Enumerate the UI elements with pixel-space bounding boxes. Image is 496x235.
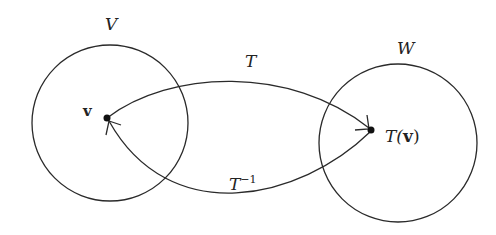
vector-v-label: v: [83, 104, 92, 119]
image-suffix: ): [413, 126, 420, 146]
arrow-t-curve: [107, 81, 369, 128]
set-w-label: W: [397, 40, 414, 57]
vector-v-point: [104, 115, 111, 122]
map-t-inverse-base: T: [229, 174, 240, 194]
image-tv-label: T(v): [385, 128, 420, 145]
map-t-inverse-exponent: −1: [240, 173, 256, 186]
inverse-transformation-diagram: V W T v T(v) T−1: [0, 0, 496, 235]
image-prefix: T(: [385, 126, 403, 146]
vector-tv-point: [368, 127, 375, 134]
set-v-label: V: [105, 16, 117, 33]
image-vec: v: [403, 126, 413, 146]
diagram-graphics: [0, 0, 496, 235]
map-t-label: T: [245, 53, 256, 70]
map-t-inverse-label: T−1: [229, 174, 257, 193]
